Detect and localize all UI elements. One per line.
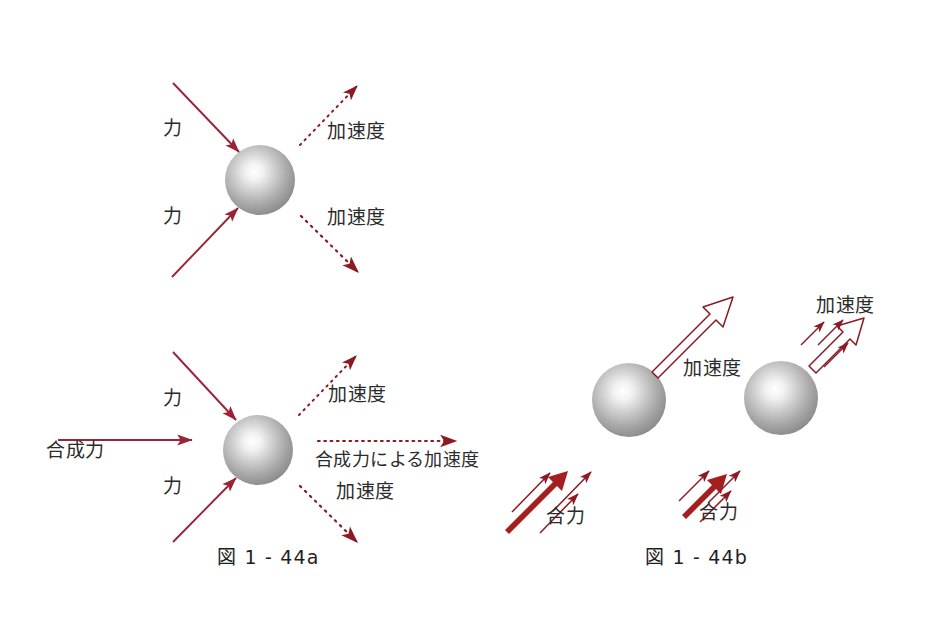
- label-resultant-force-b-right: 合力: [699, 503, 738, 522]
- fig-bottom-left-group: [58, 352, 456, 542]
- label-accel-b-right: 加速度: [816, 296, 875, 315]
- diagram-canvas: [0, 0, 928, 627]
- force-arrow-upper-bottom: [173, 352, 236, 420]
- fig-top-group: [172, 83, 358, 277]
- caption-fig-1-44a: 図 1 - 44a: [217, 548, 320, 567]
- label-force-upper-bottom: 力: [163, 389, 183, 408]
- sphere-bottom-left: [223, 415, 293, 485]
- label-accel-upper-bottom: 加速度: [328, 385, 387, 404]
- label-accel-upper-top: 加速度: [327, 122, 386, 141]
- fig-right-group: [505, 297, 864, 534]
- caption-fig-1-44b: 図 1 - 44b: [645, 548, 748, 567]
- label-resultant-accel: 合成力による加速度: [315, 451, 480, 469]
- label-accel-lower-top: 加速度: [327, 208, 386, 227]
- figure-root: 力 力 加速度 加速度 力 力 合成力 加速度 合成力による加速度 加速度 合力…: [0, 0, 928, 627]
- sphere-b-right: [744, 361, 818, 435]
- sphere-top: [225, 145, 295, 215]
- force-arrow-upper-top: [173, 83, 239, 152]
- label-force-lower-top: 力: [163, 207, 183, 226]
- label-resultant-force: 合成力: [46, 441, 105, 460]
- label-accel-b-left: 加速度: [683, 359, 742, 378]
- label-force-lower-bottom: 力: [163, 477, 183, 496]
- label-accel-lower-bottom: 加速度: [336, 482, 395, 501]
- label-force-upper-top: 力: [163, 119, 183, 138]
- label-resultant-force-b-left: 合力: [546, 507, 585, 526]
